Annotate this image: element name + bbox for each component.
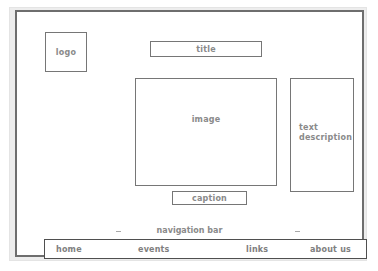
navigation-bar-annotation: navigation bar xyxy=(17,226,362,235)
caption-placeholder[interactable]: caption xyxy=(172,191,247,205)
navigation-tick-left-icon xyxy=(116,231,121,232)
nav-item-home[interactable]: home xyxy=(56,245,82,254)
title-placeholder[interactable]: title xyxy=(150,41,262,57)
nav-item-links[interactable]: links xyxy=(246,245,268,254)
text-description-label: text description xyxy=(299,123,352,143)
text-description-placeholder[interactable]: text description xyxy=(290,78,354,192)
wireframe-canvas: logo title image text description captio… xyxy=(0,0,378,271)
image-placeholder[interactable]: image xyxy=(135,78,277,186)
image-label: image xyxy=(136,115,276,125)
logo-label: logo xyxy=(46,48,86,58)
caption-label: caption xyxy=(173,194,246,204)
logo-placeholder[interactable]: logo xyxy=(45,32,87,72)
page-frame: logo title image text description captio… xyxy=(15,10,364,257)
title-label: title xyxy=(151,45,261,55)
nav-item-events[interactable]: events xyxy=(138,245,170,254)
navigation-bar: home events links about us xyxy=(44,239,367,259)
navigation-tick-right-icon xyxy=(295,231,300,232)
nav-item-about-us[interactable]: about us xyxy=(310,245,351,254)
